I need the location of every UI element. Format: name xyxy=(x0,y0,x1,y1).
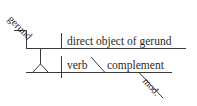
direct-object-label: direct object of gerund xyxy=(67,36,171,48)
complement-slash xyxy=(91,57,105,73)
verb-label: verb xyxy=(67,60,87,72)
diagram-lines xyxy=(0,0,197,106)
complement-label: complement xyxy=(107,60,164,72)
stilt-fork xyxy=(33,64,48,72)
